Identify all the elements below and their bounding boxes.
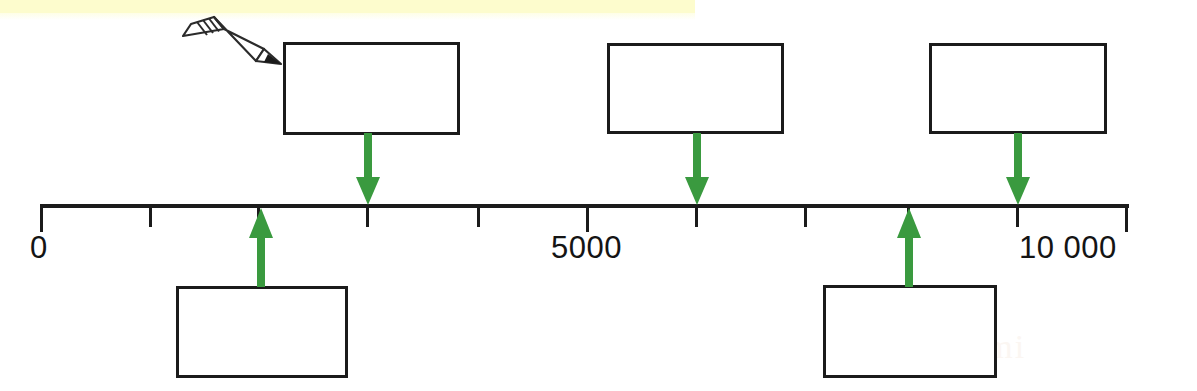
arrow-down-3: [1005, 133, 1031, 206]
axis-label-start: 0: [30, 232, 48, 263]
answer-box-top-3[interactable]: [929, 43, 1107, 134]
arrow-up-1: [248, 208, 274, 288]
axis-label-middle: 5000: [551, 232, 622, 263]
answer-box-top-2[interactable]: [607, 43, 784, 134]
axis-tick-5000: [586, 204, 589, 232]
axis-tick-1000: [149, 204, 152, 227]
arrow-down-1: [355, 133, 381, 206]
number-line-axis: [41, 204, 1129, 208]
highlight-band: [0, 0, 695, 13]
highlight-band-fade: [0, 13, 695, 20]
worksheet-canvas: io lujmjami 0 5000 10 000: [0, 0, 1197, 391]
answer-box-bottom-2[interactable]: [823, 285, 997, 378]
answer-box-top-1[interactable]: [283, 42, 460, 135]
axis-tick-3000: [366, 204, 369, 227]
axis-tick-4000: [477, 204, 480, 227]
axis-tick-6000: [695, 204, 698, 227]
axis-tick-9000: [1016, 204, 1019, 227]
pencil-icon: [178, 14, 286, 70]
axis-label-end: 10 000: [1019, 232, 1117, 263]
answer-box-bottom-1[interactable]: [176, 286, 348, 378]
arrow-up-2: [896, 208, 922, 288]
axis-tick-0: [40, 204, 43, 232]
arrow-down-2: [684, 133, 710, 206]
axis-tick-10000: [1125, 204, 1128, 232]
axis-tick-7000: [804, 204, 807, 227]
